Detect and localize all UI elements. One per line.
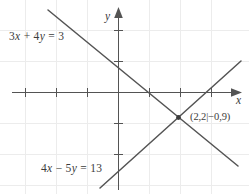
- equation-label-2: 4x − 5y = 13: [41, 162, 102, 174]
- y-axis-arrowhead: [114, 7, 123, 18]
- equation-1-text: 3x + 4y = 3: [9, 30, 64, 42]
- equation-label-1: 3x + 4y = 3: [9, 30, 64, 42]
- intersection-point-label: (2,2|−0,9): [190, 111, 230, 122]
- coordinate-plane-figure: 3x + 4y = 3 4x − 5y = 13 x y (2,2|−0,9): [0, 0, 249, 194]
- y-axis-label: y: [105, 10, 110, 22]
- line-equation-2: [100, 61, 241, 188]
- y-axis: [114, 7, 123, 190]
- intersection-point-marker: [176, 115, 181, 120]
- line-equation-1: [48, 10, 238, 166]
- equation-2-text: 4x − 5y = 13: [41, 162, 102, 174]
- x-axis-label: x: [236, 94, 241, 106]
- x-axis: [12, 88, 242, 97]
